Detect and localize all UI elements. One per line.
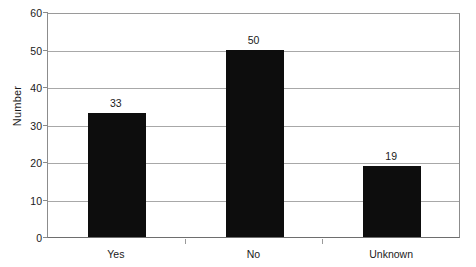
bar-value-label: 33: [86, 98, 146, 109]
bar: [226, 50, 284, 238]
plot-area: [47, 13, 460, 238]
x-axis-separator-tick: [322, 239, 323, 244]
bar: [88, 113, 146, 237]
bar: [363, 166, 421, 237]
bar-value-label: 50: [224, 35, 284, 46]
x-axis-separator-tick: [185, 239, 186, 244]
bar-chart: Number 0102030405060 335019 YesNoUnknown: [0, 0, 476, 267]
x-axis-category-label: Yes: [71, 249, 161, 260]
x-axis-category-label: No: [209, 249, 299, 260]
bar-value-label: 19: [361, 151, 421, 162]
x-axis-category-label: Unknown: [346, 249, 436, 260]
